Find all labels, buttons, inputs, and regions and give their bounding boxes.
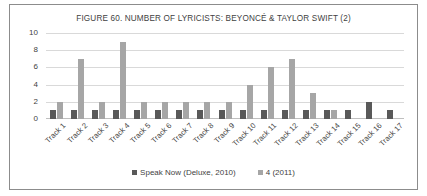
legend-swatch-icon (258, 170, 263, 175)
bar (197, 110, 203, 119)
legend-item[interactable]: Speak Now (Deluxe, 2010) (132, 168, 236, 177)
bar (324, 110, 330, 119)
bar-group (299, 33, 320, 119)
bar (50, 110, 56, 119)
legend-label: Speak Now (Deluxe, 2010) (140, 168, 236, 177)
x-axis-tick-label: Track 1 (44, 121, 68, 145)
bar-group (67, 33, 88, 119)
bar (331, 110, 337, 119)
bar (219, 110, 225, 119)
y-axis-tick-label: 8 (34, 46, 38, 54)
x-axis-tick-label: Track 3 (86, 121, 110, 145)
bar (162, 102, 168, 119)
bar (226, 102, 232, 119)
x-axis-tick-label: Track 7 (170, 121, 194, 145)
bar (387, 110, 393, 119)
bar (303, 110, 309, 119)
bar-group (151, 33, 172, 119)
bar (366, 102, 372, 119)
bar (247, 85, 253, 119)
bar-group (383, 33, 404, 119)
x-axis-labels: Track 1Track 2Track 3Track 4Track 5Track… (46, 119, 404, 165)
bar (240, 110, 246, 119)
bar-group (278, 33, 299, 119)
bar (134, 110, 140, 119)
bar (120, 42, 126, 119)
bar-group (88, 33, 109, 119)
chart-legend: Speak Now (Deluxe, 2010)4 (2011) (10, 168, 417, 177)
bar-group (362, 33, 383, 119)
bar-group (130, 33, 151, 119)
bar (183, 102, 189, 119)
bar (57, 102, 63, 119)
bar (99, 102, 105, 119)
bar (155, 110, 161, 119)
y-axis-tick-label: 6 (34, 63, 38, 71)
chart-title: FIGURE 60. NUMBER OF LYRICISTS: BEYONCÉ … (10, 14, 417, 23)
bar (310, 93, 316, 119)
bar-group (341, 33, 362, 119)
bar (71, 110, 77, 119)
bar-groups (46, 33, 404, 119)
bar (78, 59, 84, 119)
legend-item[interactable]: 4 (2011) (258, 168, 295, 177)
bar (261, 110, 267, 119)
bar-group (215, 33, 236, 119)
bar (282, 110, 288, 119)
bar-group (320, 33, 341, 119)
y-axis-tick-label: 2 (34, 98, 38, 106)
bar-group (236, 33, 257, 119)
x-axis-tick-label: Track 6 (149, 121, 173, 145)
legend-label: 4 (2011) (266, 168, 295, 177)
y-axis: 0246810 (10, 33, 42, 119)
bar (204, 102, 210, 119)
bar-group (172, 33, 193, 119)
x-axis-tick-label: Track 2 (65, 121, 89, 145)
bar (345, 110, 351, 119)
bar (176, 110, 182, 119)
bar-group (257, 33, 278, 119)
y-axis-tick-label: 0 (34, 115, 38, 123)
chart-container: FIGURE 60. NUMBER OF LYRICISTS: BEYONCÉ … (9, 4, 418, 190)
y-axis-tick-label: 10 (29, 29, 38, 37)
bar-group (46, 33, 67, 119)
x-axis-tick-label: Track 5 (128, 121, 152, 145)
bar (113, 110, 119, 119)
bar (268, 67, 274, 119)
x-axis-tick-label: Track 4 (107, 121, 131, 145)
bar (92, 110, 98, 119)
bar (289, 59, 295, 119)
legend-swatch-icon (132, 170, 137, 175)
x-axis-tick-label: Track 8 (191, 121, 215, 145)
bar-group (109, 33, 130, 119)
bar (141, 102, 147, 119)
plot-area (46, 33, 404, 119)
y-axis-tick-label: 4 (34, 81, 38, 89)
bar-group (193, 33, 214, 119)
